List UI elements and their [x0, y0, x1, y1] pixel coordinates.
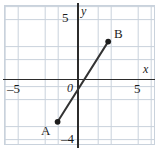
y-axis-name-label: y	[81, 5, 86, 17]
x-axis-tick-label-5: 5	[134, 82, 141, 95]
coordinate-plane-figure: 5 –4 –5 5 0 y x A B	[0, 0, 158, 152]
segment-and-points-layer	[0, 0, 158, 152]
point-a-label: A	[41, 124, 50, 137]
point-a-marker	[55, 119, 61, 125]
x-axis-tick-label-minus-5: –5	[7, 82, 20, 95]
point-b-label: B	[114, 27, 123, 40]
segment-ab	[58, 42, 109, 122]
y-axis-tick-label-5: 5	[62, 11, 69, 24]
point-b-marker	[105, 39, 111, 45]
y-axis-tick-label-minus-4: –4	[61, 132, 74, 145]
x-axis-name-label: x	[143, 63, 148, 75]
origin-label: 0	[67, 82, 73, 94]
